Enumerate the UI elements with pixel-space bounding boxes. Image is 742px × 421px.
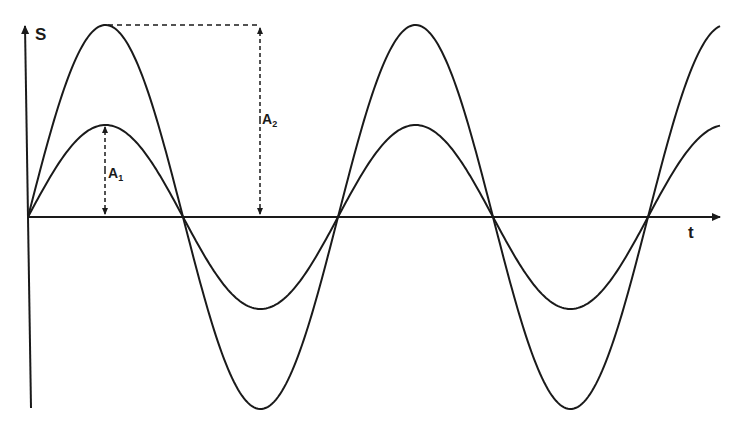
wave-diagram: S t A1 A2 [0,0,742,421]
t-axis-label: t [688,223,694,242]
s-axis-label: S [35,25,46,44]
a1-label: A1 [108,165,123,183]
a2-label: A2 [262,111,277,129]
